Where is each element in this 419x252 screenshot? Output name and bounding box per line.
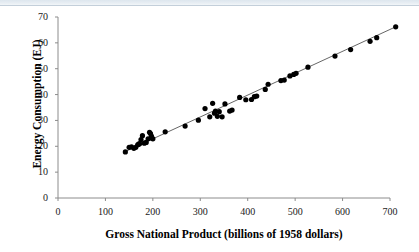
data-point [266, 82, 271, 87]
data-point [123, 149, 128, 154]
data-point [202, 106, 207, 111]
data-point [282, 77, 287, 82]
data-point [243, 97, 248, 102]
x-tick-label: 300 [185, 206, 215, 217]
data-point [305, 65, 310, 70]
x-tick-label: 700 [375, 206, 405, 217]
x-tick-label: 100 [90, 206, 120, 217]
data-point [222, 101, 227, 106]
data-point [220, 114, 225, 119]
data-point [229, 107, 234, 112]
x-tick-label: 600 [328, 206, 358, 217]
scatter-chart: 010203040506070 0100200300400500600700 G… [0, 0, 419, 252]
axis-lines [58, 17, 390, 198]
data-point [215, 114, 220, 119]
data-point [254, 94, 259, 99]
data-point [183, 124, 188, 129]
data-point [367, 39, 372, 44]
data-point [263, 87, 268, 92]
x-tick-label: 200 [138, 206, 168, 217]
data-point [237, 95, 242, 100]
data-point [196, 118, 201, 123]
x-axis-title: Gross National Product (billions of 1958… [58, 228, 390, 240]
data-point [348, 47, 353, 52]
data-point [217, 109, 222, 114]
data-point [207, 114, 212, 119]
data-point [210, 101, 215, 106]
x-tick-label: 500 [280, 206, 310, 217]
y-axis-title: Energy Consumption (EJ) [31, 9, 43, 199]
data-point [150, 136, 155, 141]
data-point [374, 35, 379, 40]
data-point [393, 24, 398, 29]
x-tick-label: 400 [233, 206, 263, 217]
x-tick-label: 0 [43, 206, 73, 217]
data-point [293, 71, 298, 76]
data-point [332, 53, 337, 58]
data-point [140, 133, 145, 138]
data-point [163, 129, 168, 134]
